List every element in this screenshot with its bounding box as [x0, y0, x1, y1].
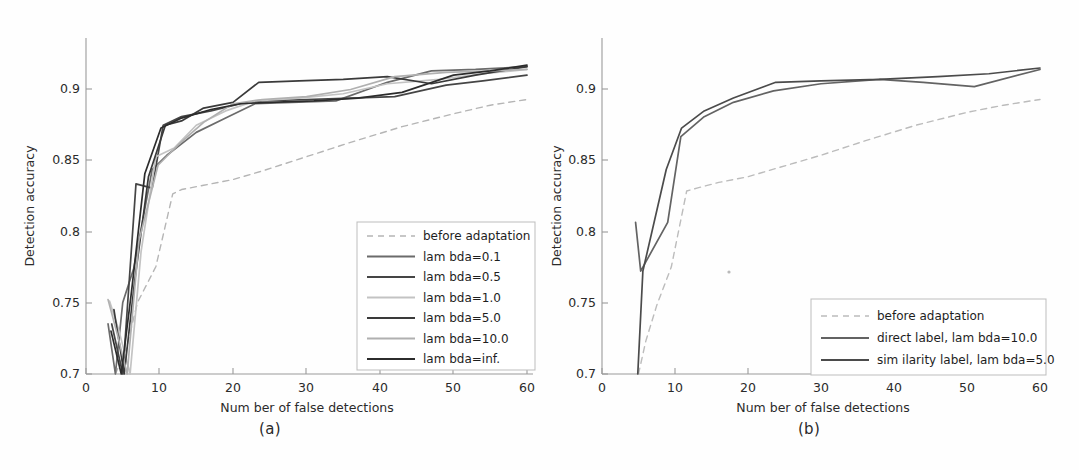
panel-a-ytick-4: 0.9	[60, 81, 80, 96]
panel-b-xtick-5: 50	[959, 380, 975, 395]
panel-b-y-axis-title: Detection accuracy	[549, 145, 564, 267]
panel-a-xtick-0: 0	[82, 380, 90, 395]
panel-b-ytick-2: 0.8	[576, 224, 596, 239]
series-line-1	[636, 69, 1040, 271]
panel-b-xtick-0: 0	[598, 380, 606, 395]
panel-b-xtick-3: 30	[813, 380, 829, 395]
panel-a-ytick-3: 0.85	[52, 152, 80, 167]
panel-b-x-axis-title: Num ber of false detections	[736, 400, 909, 415]
panel-a-xtick-2: 20	[225, 380, 241, 395]
panel-b-xtick-2: 20	[740, 380, 756, 395]
panel-a: 0.7 0.75 0.8 0.85 0.9 0 10 20 30 40 50 6…	[0, 0, 540, 470]
legend-label-2: sim ilarity label, lam bda=5.0	[877, 353, 1055, 367]
legend-label-0: before adaptation	[423, 229, 530, 243]
panel-b-ytick-1: 0.75	[568, 295, 596, 310]
panel-b: 0.7 0.75 0.8 0.85 0.9 0 10 20 30 40 50 6…	[539, 0, 1079, 470]
panel-b-xtick-4: 40	[886, 380, 902, 395]
panel-b-legend[interactable]: before adaptationdirect label, lam bda=1…	[811, 299, 1055, 375]
panel-a-ytick-1: 0.75	[52, 295, 80, 310]
panel-a-y-ticks	[86, 89, 92, 374]
panel-b-caption: (b)	[539, 420, 1079, 438]
panel-b-xtick-1: 10	[667, 380, 683, 395]
panel-a-xtick-3: 30	[298, 380, 314, 395]
panel-a-y-axis-title: Detection accuracy	[22, 145, 37, 267]
figure-canvas: 0.7 0.75 0.8 0.85 0.9 0 10 20 30 40 50 6…	[0, 0, 1079, 470]
legend-label-0: before adaptation	[877, 309, 984, 323]
legend-label-1: lam bda=0.1	[423, 250, 501, 264]
panel-a-caption: (a)	[0, 420, 540, 438]
panel-a-xtick-4: 40	[372, 380, 388, 395]
legend-label-2: lam bda=0.5	[423, 270, 501, 284]
panel-a-plot: 0.7 0.75 0.8 0.85 0.9 0 10 20 30 40 50 6…	[0, 0, 540, 470]
legend-label-3: lam bda=1.0	[423, 291, 501, 305]
scan-artifact-speck	[727, 270, 730, 273]
panel-b-plot: 0.7 0.75 0.8 0.85 0.9 0 10 20 30 40 50 6…	[539, 0, 1079, 470]
legend-label-6: lam bda=inf.	[423, 352, 500, 366]
panel-b-ytick-4: 0.9	[576, 81, 596, 96]
legend-label-5: lam bda=10.0	[423, 332, 509, 346]
panel-a-legend[interactable]: before adaptationlam bda=0.1lam bda=0.5l…	[357, 222, 535, 370]
panel-a-xtick-6: 60	[519, 380, 535, 395]
panel-a-ytick-2: 0.8	[60, 224, 80, 239]
panel-a-x-axis-title: Num ber of false detections	[220, 400, 393, 415]
panel-a-xtick-5: 50	[445, 380, 461, 395]
panel-b-y-ticks	[602, 89, 608, 374]
panel-b-xtick-6: 60	[1032, 380, 1048, 395]
panel-b-ytick-0: 0.7	[576, 366, 596, 381]
legend-label-4: lam bda=5.0	[423, 311, 501, 325]
panel-a-ytick-0: 0.7	[60, 366, 80, 381]
legend-label-1: direct label, lam bda=10.0	[877, 331, 1037, 345]
panel-a-xtick-1: 10	[151, 380, 167, 395]
panel-b-ytick-3: 0.85	[568, 152, 596, 167]
